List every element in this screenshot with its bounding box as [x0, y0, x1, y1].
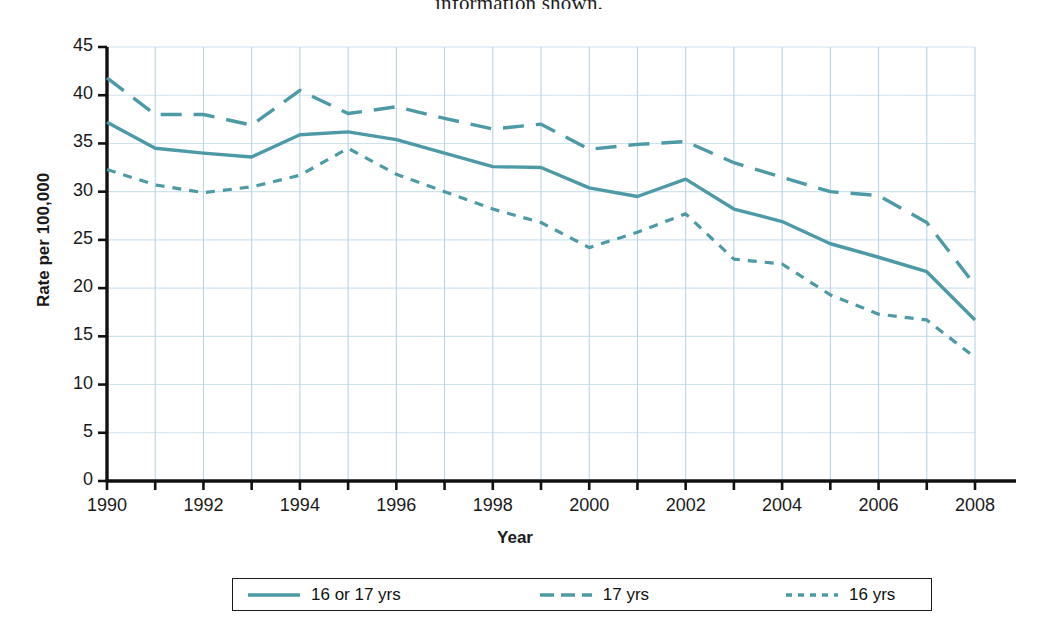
y-tick-label: 5 — [51, 421, 93, 442]
y-tick-label: 20 — [51, 276, 93, 297]
x-tick-label: 1996 — [361, 495, 431, 516]
y-tick-label: 45 — [51, 35, 93, 56]
legend-item-1: 17 yrs — [540, 585, 649, 605]
x-tick-label: 2000 — [554, 495, 624, 516]
line-chart-figure: Rate per 100,000 Year 051015202530354045… — [0, 0, 1038, 634]
y-tick-label: 10 — [51, 373, 93, 394]
x-tick-label: 1998 — [458, 495, 528, 516]
legend-swatch-dashed — [540, 589, 592, 601]
legend-swatch-solid — [248, 589, 300, 601]
y-tick-label: 15 — [51, 324, 93, 345]
y-tick-label: 40 — [51, 83, 93, 104]
y-tick-label: 0 — [51, 469, 93, 490]
y-tick-label: 30 — [51, 180, 93, 201]
legend-label: 16 yrs — [849, 585, 895, 605]
x-tick-label: 2002 — [651, 495, 721, 516]
legend-item-0: 16 or 17 yrs — [248, 585, 401, 605]
x-tick-label: 2006 — [844, 495, 914, 516]
x-tick-label: 2004 — [747, 495, 817, 516]
x-tick-label: 2008 — [940, 495, 1010, 516]
legend-label: 16 or 17 yrs — [311, 585, 401, 605]
x-tick-label: 1990 — [72, 495, 142, 516]
x-tick-label: 1992 — [168, 495, 238, 516]
legend-label: 17 yrs — [603, 585, 649, 605]
legend-item-2: 16 yrs — [786, 585, 895, 605]
x-tick-label: 1994 — [265, 495, 335, 516]
legend-swatch-dotted — [786, 589, 838, 601]
x-axis-title: Year — [0, 528, 1034, 548]
y-tick-label: 25 — [51, 228, 93, 249]
chart-legend: 16 or 17 yrs17 yrs16 yrs — [232, 578, 932, 611]
y-tick-label: 35 — [51, 131, 93, 152]
